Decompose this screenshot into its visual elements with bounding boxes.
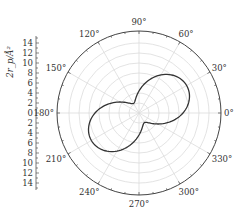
radial-tick-label: 6 — [28, 138, 33, 148]
angular-tick — [200, 60, 201, 61]
angle-label: 300° — [179, 187, 199, 197]
y-axis-title: 2r_p/Å² — [4, 46, 16, 79]
angular-tick — [98, 42, 100, 45]
radial-tick-label: 2 — [28, 118, 33, 128]
angle-label: 60° — [179, 29, 194, 39]
angular-tick — [207, 72, 210, 74]
angular-tick — [76, 60, 77, 61]
angle-label: 30° — [212, 63, 227, 73]
radial-tick-label: 10 — [22, 158, 33, 168]
angular-tick — [76, 165, 77, 166]
polar-chart: 141210864202468101214 0°30°60°90°120°150… — [0, 0, 243, 219]
radial-tick-label: 0 — [28, 108, 33, 118]
radial-tick-label: 12 — [22, 168, 33, 178]
angle-label: 330° — [212, 154, 232, 164]
angle-label: 210° — [46, 154, 66, 164]
angular-tick — [191, 174, 192, 175]
angle-label: 120° — [79, 29, 99, 39]
angular-tick — [191, 50, 192, 51]
angular-tick — [86, 50, 87, 51]
angular-tick — [200, 165, 201, 166]
angle-label: 150° — [46, 63, 66, 73]
angular-tick — [179, 181, 181, 184]
radial-tick-label: 12 — [22, 48, 33, 58]
angular-tick — [86, 174, 87, 175]
radial-tick-label: 10 — [22, 58, 33, 68]
angular-tick — [68, 153, 71, 155]
angular-tick — [98, 181, 100, 184]
radial-tick-label: 2 — [28, 98, 33, 108]
angular-tick — [179, 42, 181, 45]
radial-tick-label: 14 — [22, 178, 33, 188]
angle-label: 240° — [79, 187, 99, 197]
radial-tick-label: 4 — [28, 128, 33, 138]
angle-label: 90° — [131, 17, 146, 27]
angular-tick — [68, 72, 71, 74]
radial-tick-label: 4 — [28, 88, 33, 98]
radial-tick-label: 14 — [22, 38, 33, 48]
radial-tick-label: 8 — [28, 148, 33, 158]
polar-grid — [57, 31, 221, 195]
angular-tick — [207, 153, 210, 155]
angle-label: 270° — [129, 199, 149, 209]
angle-label: 0° — [224, 108, 234, 118]
radial-tick-label: 6 — [28, 78, 33, 88]
angle-label: 180° — [34, 108, 54, 118]
radial-tick-label: 8 — [28, 68, 33, 78]
